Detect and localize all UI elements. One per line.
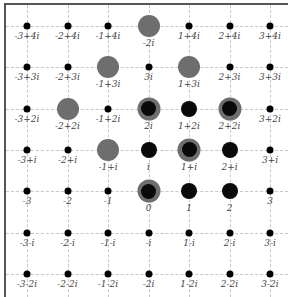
both-point-marker — [218, 97, 241, 120]
both-point-marker — [178, 138, 201, 161]
point-label: -1 — [104, 196, 113, 206]
point-label: -3+3i — [15, 72, 40, 82]
small-point-marker — [145, 270, 152, 277]
small-point-marker — [24, 64, 31, 71]
point-label: 2i — [144, 121, 153, 131]
small-point-marker — [24, 146, 31, 153]
small-point-marker — [24, 105, 31, 112]
point-label: 1-2i — [180, 279, 197, 289]
small-point-marker — [64, 23, 71, 30]
point-label: 1+4i — [178, 31, 200, 41]
point-label: 3+i — [262, 155, 278, 165]
point-label: i — [147, 162, 150, 172]
small-point-marker — [267, 23, 274, 30]
point-label: 3+2i — [259, 114, 281, 124]
point-label: -3-2i — [17, 279, 37, 289]
small-point-marker — [186, 23, 193, 30]
gray-point-marker — [178, 56, 200, 78]
small-point-marker — [24, 270, 31, 277]
point-label: -2+i — [58, 155, 77, 165]
medium-point-marker — [141, 142, 157, 158]
point-label: 1-i — [183, 238, 195, 248]
point-label: -3+4i — [15, 31, 40, 41]
small-point-marker — [145, 229, 152, 236]
small-point-marker — [64, 146, 71, 153]
small-point-marker — [145, 64, 152, 71]
point-label: 1+i — [181, 162, 197, 172]
medium-point-marker — [181, 183, 197, 199]
point-label: -1-2i — [98, 279, 118, 289]
small-point-marker — [105, 229, 112, 236]
small-point-marker — [267, 188, 274, 195]
small-point-marker — [64, 270, 71, 277]
gray-point-marker — [57, 98, 79, 120]
small-point-marker — [267, 270, 274, 277]
point-label: 2+2i — [219, 121, 241, 131]
both-point-marker — [137, 180, 160, 203]
small-point-marker — [64, 188, 71, 195]
point-label: -2-i — [60, 238, 75, 248]
small-point-marker — [64, 64, 71, 71]
small-point-marker — [267, 64, 274, 71]
small-point-marker — [267, 146, 274, 153]
small-point-marker — [226, 23, 233, 30]
point-label: 2-2i — [221, 279, 238, 289]
point-label: -1+2i — [96, 114, 121, 124]
medium-point-marker — [222, 183, 238, 199]
point-label: 3 — [267, 196, 273, 206]
small-point-marker — [226, 229, 233, 236]
point-label: -1+i — [98, 162, 117, 172]
point-label: -3+i — [17, 155, 36, 165]
point-label: 2 — [227, 203, 233, 213]
point-label: -2 — [63, 196, 72, 206]
small-point-marker — [267, 229, 274, 236]
small-point-marker — [24, 188, 31, 195]
point-label: -2+3i — [55, 72, 80, 82]
point-label: -2i — [143, 279, 155, 289]
lattice-frame: -3+4i-2+4i-1+4i-2i1+4i2+4i3+4i-3+3i-2+3i… — [4, 3, 288, 297]
point-label: -1-i — [101, 238, 116, 248]
point-label: 2+i — [221, 162, 237, 172]
gray-point-marker — [138, 15, 160, 37]
medium-point-marker — [222, 142, 238, 158]
point-label: -3+2i — [15, 114, 40, 124]
small-point-marker — [105, 188, 112, 195]
small-point-marker — [105, 23, 112, 30]
small-point-marker — [186, 229, 193, 236]
small-point-marker — [226, 64, 233, 71]
point-label: 3-2i — [261, 279, 278, 289]
point-label: 2-i — [224, 238, 236, 248]
both-point-marker — [137, 97, 160, 120]
point-label: -2i — [143, 38, 155, 48]
gray-point-marker — [97, 56, 119, 78]
point-label: -i — [146, 238, 152, 248]
point-label: -1+4i — [96, 31, 121, 41]
small-point-marker — [105, 105, 112, 112]
point-label: -1+3i — [96, 79, 121, 89]
point-label: 2+3i — [219, 72, 241, 82]
point-label: -3-i — [20, 238, 35, 248]
small-point-marker — [24, 229, 31, 236]
point-label: 3+3i — [259, 72, 281, 82]
point-label: -3 — [23, 196, 32, 206]
point-label: -2-2i — [57, 279, 77, 289]
small-point-marker — [267, 105, 274, 112]
small-point-marker — [24, 23, 31, 30]
small-point-marker — [226, 270, 233, 277]
point-label: 3i — [144, 72, 153, 82]
small-point-marker — [64, 229, 71, 236]
point-label: -2+4i — [55, 31, 80, 41]
point-label: 1+2i — [178, 121, 200, 131]
medium-point-marker — [181, 101, 197, 117]
point-label: 3-i — [264, 238, 276, 248]
point-label: 1 — [186, 203, 192, 213]
point-label: 0 — [146, 203, 152, 213]
point-label: 1+3i — [178, 79, 200, 89]
point-label: 3+4i — [259, 31, 281, 41]
small-point-marker — [105, 270, 112, 277]
small-point-marker — [186, 270, 193, 277]
gray-point-marker — [97, 139, 119, 161]
point-label: -2+2i — [55, 121, 80, 131]
point-label: 2+4i — [219, 31, 241, 41]
